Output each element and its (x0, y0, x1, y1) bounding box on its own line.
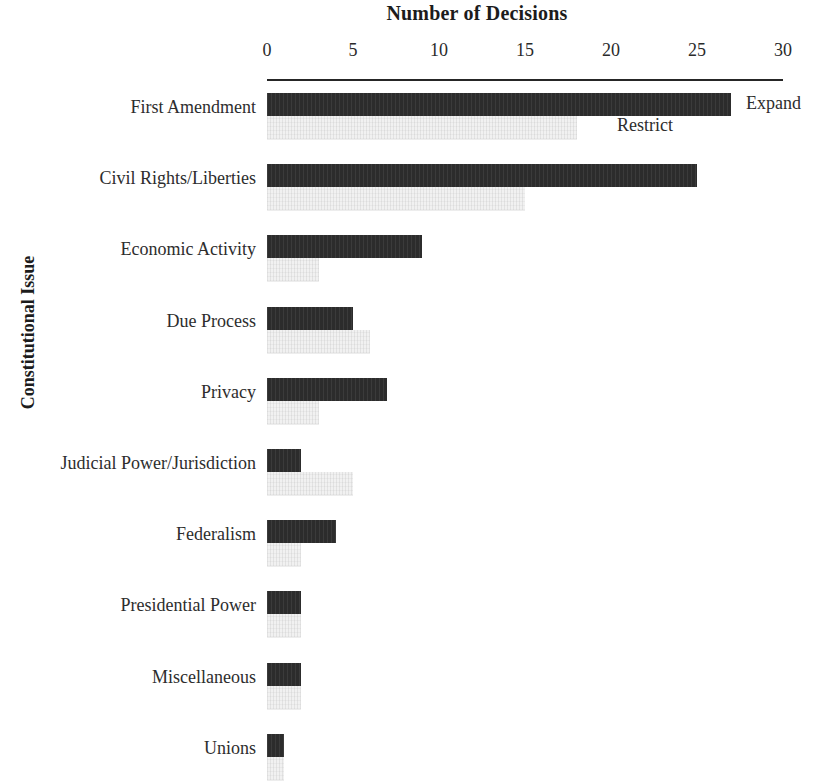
x-tick-30: 30 (774, 40, 792, 61)
category-label: Civil Rights/Liberties (100, 168, 257, 189)
bar-restrict (267, 258, 319, 282)
bar-group: Economic Activity (0, 235, 815, 281)
bar-group: Due Process (0, 307, 815, 353)
x-tick-20: 20 (602, 40, 620, 61)
bar-expand (267, 93, 731, 116)
category-label: Presidential Power (121, 595, 256, 616)
category-label: Unions (204, 738, 256, 759)
category-label: First Amendment (131, 97, 257, 118)
bar-restrict (267, 116, 577, 140)
bar-expand (267, 307, 353, 330)
bar-group: Privacy (0, 378, 815, 424)
bar-group: Civil Rights/Liberties (0, 164, 815, 210)
bar-group: First AmendmentExpandRestrict (0, 93, 815, 139)
bar-group: Federalism (0, 520, 815, 566)
x-tick-15: 15 (516, 40, 534, 61)
bar-restrict (267, 543, 301, 567)
x-tick-0: 0 (263, 40, 272, 61)
x-axis-tick-labels: 051015202530 (0, 40, 815, 64)
legend-label-expand: Expand (746, 93, 801, 114)
category-label: Due Process (167, 311, 256, 332)
category-label: Judicial Power/Jurisdiction (61, 453, 256, 474)
x-tick-5: 5 (349, 40, 358, 61)
plot-area: First AmendmentExpandRestrictCivil Right… (0, 80, 815, 769)
bar-restrict (267, 614, 301, 638)
bar-expand (267, 164, 697, 187)
bar-expand (267, 449, 301, 472)
bar-restrict (267, 686, 301, 710)
chart-title: Number of Decisions (267, 2, 687, 25)
bar-restrict (267, 401, 319, 425)
x-tick-10: 10 (430, 40, 448, 61)
bar-expand (267, 235, 422, 258)
bar-restrict (267, 472, 353, 496)
legend-label-restrict: Restrict (617, 115, 673, 136)
bar-group: Presidential Power (0, 591, 815, 637)
bar-restrict (267, 187, 525, 211)
bar-expand (267, 663, 301, 686)
bar-group: Unions (0, 734, 815, 780)
bar-restrict (267, 330, 370, 354)
bar-group: Judicial Power/Jurisdiction (0, 449, 815, 495)
bar-expand (267, 520, 336, 543)
bar-group: Miscellaneous (0, 663, 815, 709)
bar-expand (267, 378, 387, 401)
bar-expand (267, 591, 301, 614)
bar-expand (267, 734, 284, 757)
category-label: Economic Activity (121, 239, 256, 260)
category-label: Privacy (201, 382, 256, 403)
category-label: Federalism (176, 524, 256, 545)
x-tick-25: 25 (688, 40, 706, 61)
bar-restrict (267, 757, 284, 781)
category-label: Miscellaneous (152, 667, 256, 688)
